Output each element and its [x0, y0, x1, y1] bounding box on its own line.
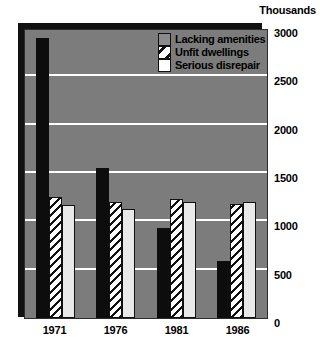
legend-item-unfit-dwellings: Unfit dwellings: [158, 46, 265, 59]
bar-1981-series-0: [157, 228, 170, 318]
y-axis-tick-label: 500: [274, 269, 292, 281]
bar-1986-series-2: [243, 202, 256, 318]
bar-1986-series-0: [217, 261, 230, 318]
y-axis: 300025002000150010005000: [274, 0, 320, 351]
bar-1976-series-1: [109, 202, 122, 318]
x-axis-tick-label: 1986: [210, 324, 266, 336]
y-axis-tick-label: 3000: [274, 27, 298, 39]
bar-group: [217, 30, 256, 318]
legend-item-serious-disrepair: Serious disrepair: [158, 59, 265, 72]
x-axis-tick-label: 1981: [149, 324, 205, 336]
y-axis-tick-label: 0: [274, 317, 280, 329]
bar-1986-series-1: [230, 204, 243, 318]
bar-group: [96, 30, 135, 318]
y-axis-tick-label: 2500: [274, 75, 298, 87]
legend-label: Lacking amenities: [175, 33, 265, 46]
bar-1971-series-2: [62, 205, 75, 318]
legend-swatch-solid-icon: [158, 33, 171, 46]
x-axis: 1971197619811986: [24, 324, 268, 336]
y-axis-tick-label: 1000: [274, 220, 298, 232]
legend-label: Serious disrepair: [175, 59, 260, 72]
legend-label: Unfit dwellings: [175, 46, 249, 59]
bar-1976-series-2: [122, 209, 135, 318]
bar-group: [36, 30, 75, 318]
bar-1971-series-1: [49, 197, 62, 318]
legend-swatch-white-icon: [158, 59, 171, 72]
y-axis-tick-label: 2000: [274, 124, 298, 136]
bar-group: [157, 30, 196, 318]
bar-1976-series-0: [96, 168, 109, 318]
y-axis-tick-label: 1500: [274, 172, 298, 184]
bar-groups: [25, 30, 267, 318]
chart-legend: Lacking amenities Unfit dwellings Seriou…: [158, 33, 265, 72]
bar-1971-series-0: [36, 38, 49, 318]
chart-figure: Thousands 300025002000150010005000 19711…: [0, 0, 320, 351]
legend-swatch-hatch-icon: [158, 46, 171, 59]
x-axis-tick-label: 1971: [27, 324, 83, 336]
bar-1981-series-1: [170, 199, 183, 318]
bar-1981-series-2: [183, 202, 196, 318]
x-axis-tick-label: 1976: [88, 324, 144, 336]
plot-area: [24, 29, 268, 319]
legend-item-lacking-amenities: Lacking amenities: [158, 33, 265, 46]
